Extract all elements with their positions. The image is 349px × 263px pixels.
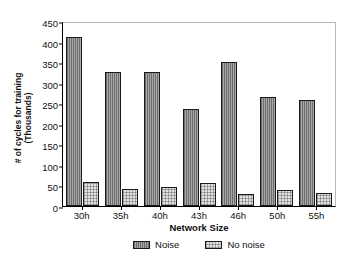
bar-group — [102, 23, 141, 206]
bar-no-noise[interactable] — [83, 182, 99, 206]
legend-item-noise: Noise — [133, 239, 179, 250]
bar-noise[interactable] — [221, 62, 237, 206]
bar-no-noise[interactable] — [161, 187, 177, 206]
bar-group — [180, 23, 219, 206]
bar-noise[interactable] — [105, 72, 121, 206]
bar-noise[interactable] — [260, 97, 276, 206]
bar-no-noise[interactable] — [122, 189, 138, 206]
legend-label-no-noise: No noise — [227, 239, 265, 250]
bar-group — [296, 23, 335, 206]
bar-no-noise[interactable] — [277, 190, 293, 206]
y-axis-title-line2: (Thousands) — [23, 33, 33, 203]
bar-noise[interactable] — [66, 37, 82, 206]
x-axis-title: Network Size — [62, 222, 336, 233]
bar-group — [257, 23, 296, 206]
legend-swatch-no-noise — [205, 241, 222, 249]
bar-group — [218, 23, 257, 206]
chart-legend: Noise No noise — [62, 239, 336, 250]
bar-groups — [63, 23, 335, 206]
bar-group — [63, 23, 102, 206]
legend-label-noise: Noise — [155, 239, 179, 250]
bar-group — [141, 23, 180, 206]
legend-swatch-noise — [133, 241, 150, 249]
bar-no-noise[interactable] — [316, 193, 332, 206]
y-axis-title-line1: # of cycles for training — [13, 73, 23, 164]
bar-chart: # of cycles for training (Thousands) 450… — [0, 0, 349, 263]
bar-no-noise[interactable] — [200, 183, 216, 206]
legend-item-no-noise: No noise — [205, 239, 265, 250]
y-axis-title: # of cycles for training (Thousands) — [13, 33, 33, 203]
plot-area: 450400350300250200150100500 — [62, 22, 336, 207]
bar-noise[interactable] — [183, 109, 199, 206]
bar-noise[interactable] — [144, 72, 160, 206]
bar-noise[interactable] — [299, 100, 315, 206]
bar-no-noise[interactable] — [238, 194, 254, 206]
